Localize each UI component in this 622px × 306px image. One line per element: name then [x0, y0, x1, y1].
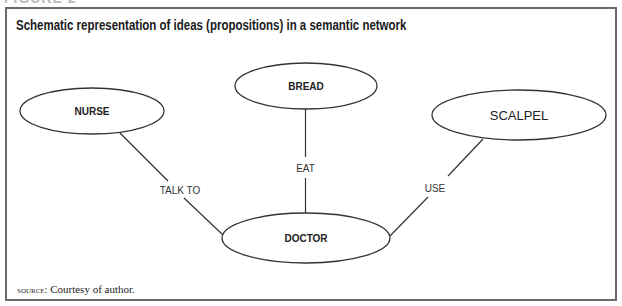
edge-line-talk-to-lower — [184, 198, 223, 235]
edge-eat: EAT — [296, 109, 315, 213]
edge-label-eat: EAT — [296, 163, 315, 174]
node-label-bread: BREAD — [288, 81, 324, 92]
edge-label-talk-to: TALK TO — [160, 185, 201, 196]
node-scalpel: SCALPEL — [432, 90, 606, 140]
semantic-network-diagram: TALK TO EAT USE NURSE BREAD SCALPEL DOCT… — [0, 0, 622, 306]
node-doctor: DOCTOR — [222, 213, 390, 263]
edge-line-talk-to-upper — [120, 133, 168, 181]
edge-line-use-lower — [390, 197, 428, 236]
source-text: Courtesy of author. — [50, 283, 135, 295]
node-label-doctor: DOCTOR — [284, 233, 328, 244]
node-bread: BREAD — [235, 63, 377, 109]
edge-line-use-upper — [448, 139, 483, 176]
edge-use: USE — [390, 139, 483, 236]
figure-source: SOURCE: Courtesy of author. — [17, 283, 135, 295]
node-label-scalpel: SCALPEL — [490, 108, 549, 123]
edge-talk-to: TALK TO — [120, 133, 223, 235]
node-label-nurse: NURSE — [74, 106, 109, 117]
edge-label-use: USE — [425, 183, 446, 194]
source-label: SOURCE: — [17, 284, 47, 295]
node-nurse: NURSE — [20, 88, 164, 134]
